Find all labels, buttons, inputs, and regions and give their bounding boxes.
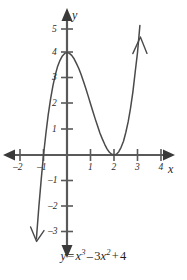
equation-caption: y=x3–3x2+4 <box>0 249 187 264</box>
equation-constant: 4 <box>120 249 126 263</box>
x-axis-label: x <box>168 163 173 175</box>
cubic-function-graph: –2 –1 1 2 3 4 5 4 3 2 1 –1 –2 –3 x y y=x… <box>0 0 187 280</box>
x-tick-label-2: 2 <box>112 163 117 173</box>
x-tick-label-3: 3 <box>135 163 140 173</box>
y-axis-label: y <box>72 9 77 21</box>
x-axis-right-arrow-icon <box>163 150 175 161</box>
x-tick-label--1: –1 <box>37 163 47 173</box>
equation-plus: + <box>111 249 120 263</box>
x-tick-label-1: 1 <box>88 163 93 173</box>
equation-minus: – <box>86 249 94 263</box>
y-tick-label--1: –1 <box>48 176 58 186</box>
plot-canvas <box>0 0 187 280</box>
y-tick-label-2: 2 <box>52 99 57 109</box>
x-tick-label-4: 4 <box>159 163 164 173</box>
y-axis-up-arrow-icon <box>62 8 73 21</box>
curve-right-arrowhead-icon <box>133 37 147 54</box>
x-tick-label--2: –2 <box>13 163 23 173</box>
y-tick-label-3: 3 <box>52 73 57 83</box>
y-tick-label--2: –2 <box>48 202 58 212</box>
y-tick-label-4: 4 <box>52 48 57 58</box>
x-axis-left-arrow-icon <box>3 150 15 161</box>
y-tick-label-5: 5 <box>52 25 57 35</box>
y-tick-label-1: 1 <box>52 125 57 135</box>
y-tick-label--3: –3 <box>48 227 58 237</box>
